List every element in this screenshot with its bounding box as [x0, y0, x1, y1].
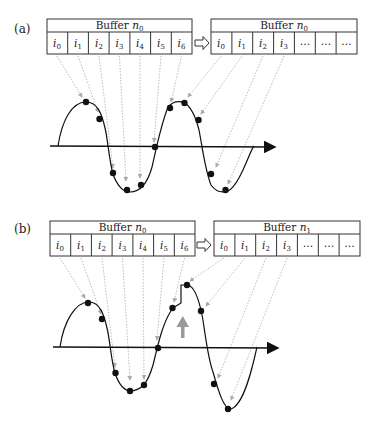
cell: i4 — [136, 37, 144, 51]
cell: … — [324, 237, 335, 249]
cell: i2 — [262, 239, 270, 253]
cell: … — [321, 35, 332, 47]
gray-up-arrow-icon — [177, 316, 190, 338]
time-axis — [50, 146, 275, 147]
cell: i1 — [241, 239, 249, 253]
cell: i3 — [119, 239, 127, 253]
cell: … — [344, 237, 355, 249]
panel-a: (a) Buffer n0 i0 i1 i2 i3 i4 i5 i6 — [14, 19, 357, 193]
cell: … — [300, 35, 311, 47]
cell: i2 — [95, 37, 103, 51]
cell: i1 — [77, 239, 85, 253]
cell: i1 — [74, 37, 82, 51]
cell: i0 — [217, 37, 225, 51]
cell: i2 — [98, 239, 106, 253]
cell: i3 — [280, 37, 288, 51]
cell: i3 — [116, 37, 124, 51]
cell: i2 — [259, 37, 267, 51]
panel-label: (b) — [14, 222, 31, 236]
panel-label: (a) — [14, 22, 31, 36]
cell: i0 — [53, 37, 61, 51]
cell: i5 — [160, 239, 168, 253]
cell: … — [303, 237, 314, 249]
cell: i5 — [157, 37, 165, 51]
hollow-right-arrow-icon — [197, 239, 211, 252]
cell: i3 — [283, 239, 291, 253]
cell: i1 — [238, 37, 246, 51]
guide-arrows — [60, 258, 287, 400]
cell: … — [341, 35, 352, 47]
cell: i6 — [181, 239, 189, 253]
buffer-title: Buffer n0 — [96, 19, 144, 33]
buffer-title: Buffer n0 — [260, 19, 308, 33]
hollow-right-arrow-icon — [195, 37, 209, 50]
cell: i0 — [220, 239, 228, 253]
time-axis — [53, 347, 278, 348]
buffer-title: Buffer n0 — [99, 221, 147, 235]
panel-b: (b) Buffer n0 i0 i1 i2 i3 i4 i5 i6 Buffe… — [14, 221, 360, 412]
buffer-title: Buffer n1 — [263, 221, 311, 235]
guide-arrows — [57, 56, 284, 184]
cell: i6 — [178, 37, 186, 51]
buffer-sampling-diagram: (a) Buffer n0 i0 i1 i2 i3 i4 i5 i6 — [0, 0, 377, 430]
cell: i0 — [56, 239, 64, 253]
cell: i4 — [139, 239, 147, 253]
